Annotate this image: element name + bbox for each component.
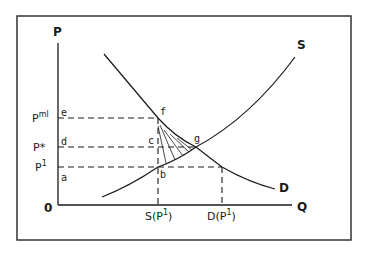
point-a-label: a	[61, 172, 67, 183]
point-f-label: f	[160, 106, 166, 117]
point-d-label: d	[61, 136, 67, 147]
y-axis-label: P	[53, 25, 62, 39]
origin-label: 0	[44, 201, 52, 215]
quantity-label-dp1: D(P1)	[207, 208, 236, 223]
price-label-pml: Pml	[32, 110, 49, 125]
supply-demand-diagram: P Q 0 S D Pml P* P1 e d a f c g b S(P1) …	[0, 0, 383, 255]
point-g-label: g	[194, 133, 200, 144]
price-label-pstar: P*	[33, 141, 46, 154]
quantity-label-sp1: S(P1)	[145, 208, 172, 223]
price-label-p1: P1	[35, 159, 47, 174]
x-axis-label: Q	[297, 200, 307, 214]
demand-label: D	[279, 181, 289, 195]
point-c-label: c	[148, 135, 154, 146]
supply-curve	[102, 57, 295, 197]
point-e-label: e	[61, 107, 67, 118]
point-b-label: b	[160, 169, 166, 180]
demand-curve	[104, 54, 275, 189]
supply-label: S	[297, 38, 306, 52]
deadweight-loss-hatch	[158, 125, 192, 163]
